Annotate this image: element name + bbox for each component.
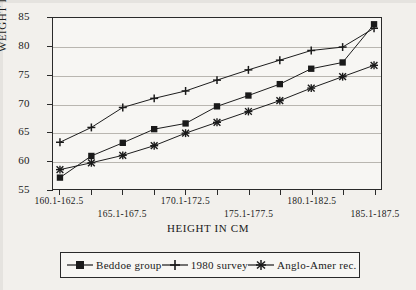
plus-marker-icon — [339, 43, 347, 51]
x-tick-label: 170.1-172.5 — [161, 196, 210, 206]
asterisk-marker-icon — [182, 129, 190, 137]
legend-label-anglo-amer: Anglo-Amer rec. — [277, 259, 357, 271]
y-tick-mark — [47, 190, 53, 191]
plus-marker-icon — [150, 94, 158, 102]
asterisk-marker-icon — [56, 166, 64, 174]
asterisk-marker-icon — [119, 151, 127, 159]
x-tick-mark — [122, 190, 123, 195]
x-tick-mark — [154, 190, 155, 195]
square-marker-icon — [339, 59, 345, 65]
chart-legend: Beddoe group 1980 survey Anglo-Amer rec. — [60, 252, 360, 278]
x-tick-mark — [280, 190, 281, 195]
square-marker-icon — [57, 174, 63, 180]
plot-area — [52, 17, 382, 190]
x-tick-label: 165.1-167.5 — [98, 209, 147, 219]
legend-item-1980-survey: 1980 survey — [162, 259, 248, 271]
asterisk-marker-icon — [150, 142, 158, 150]
plus-marker-icon — [119, 104, 127, 112]
x-tick-label: 175.1-177.5 — [224, 209, 273, 219]
legend-item-anglo-amer: Anglo-Amer rec. — [248, 259, 357, 271]
asterisk-marker-icon — [248, 259, 274, 271]
y-tick-label: 60 — [0, 154, 30, 166]
x-tick-mark — [375, 190, 376, 195]
plus-marker-icon — [87, 123, 95, 131]
x-tick-mark — [91, 190, 92, 195]
x-axis-title: HEIGHT IN CM — [0, 222, 416, 234]
y-tick-label: 75 — [0, 68, 30, 80]
square-marker-icon — [120, 140, 126, 146]
y-tick-label: 65 — [0, 125, 30, 137]
x-tick-mark — [249, 190, 250, 195]
y-tick-label: 85 — [0, 10, 30, 22]
square-marker-icon — [151, 126, 157, 132]
plus-marker-icon — [182, 87, 190, 95]
square-marker-icon — [182, 120, 188, 126]
square-marker-icon — [245, 92, 251, 98]
legend-label-1980-survey: 1980 survey — [191, 259, 248, 271]
x-tick-mark — [217, 190, 218, 195]
square-marker-icon — [308, 66, 314, 72]
y-tick-label: 80 — [0, 39, 30, 51]
asterisk-marker-icon — [276, 97, 284, 105]
plus-marker-icon — [307, 47, 315, 55]
x-tick-mark — [343, 190, 344, 195]
series-1980-survey — [56, 24, 378, 146]
series-beddoe-group — [57, 21, 377, 181]
y-tick-label: 55 — [0, 183, 30, 195]
series-line — [60, 24, 374, 177]
plus-marker-icon — [244, 66, 252, 74]
asterisk-marker-icon — [307, 84, 315, 92]
square-marker-icon — [67, 259, 93, 271]
x-tick-label: 185.1-187.5 — [350, 209, 399, 219]
y-tick-label: 70 — [0, 97, 30, 109]
square-marker-icon — [214, 103, 220, 109]
asterisk-marker-icon — [87, 159, 95, 167]
x-tick-label: 180.1-182.5 — [287, 196, 336, 206]
asterisk-marker-icon — [339, 73, 347, 81]
square-marker-icon — [88, 153, 94, 159]
x-tick-mark — [185, 190, 186, 195]
x-tick-mark — [312, 190, 313, 195]
asterisk-marker-icon — [213, 118, 221, 126]
square-marker-icon — [277, 81, 283, 87]
plus-marker-icon — [56, 138, 64, 146]
plus-marker-icon — [162, 259, 188, 271]
x-tick-label: 160.1-162.5 — [34, 196, 83, 206]
plus-marker-icon — [213, 76, 221, 84]
chart-figure: WEIGHT IN KG 85807570656055 160.1-162.51… — [0, 0, 416, 290]
data-series-layer — [53, 18, 381, 189]
x-tick-mark — [59, 190, 60, 195]
legend-label-beddoe: Beddoe group — [96, 259, 162, 271]
asterisk-marker-icon — [244, 108, 252, 116]
legend-item-beddoe: Beddoe group — [67, 259, 162, 271]
asterisk-marker-icon — [370, 61, 378, 69]
scan-artifact-top — [0, 0, 416, 3]
plus-marker-icon — [276, 56, 284, 64]
